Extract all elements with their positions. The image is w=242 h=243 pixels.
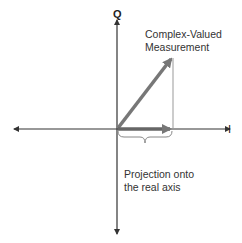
measurement-vector-arrow — [118, 59, 171, 128]
projection-label-line1: Projection onto — [124, 168, 194, 181]
i-axis-label: I — [228, 123, 231, 135]
projection-brace — [118, 131, 172, 143]
measurement-label: Complex-Valued Measurement — [145, 28, 222, 54]
q-axis-label: Q — [113, 8, 122, 20]
projection-label-line2: the real axis — [124, 181, 194, 194]
measurement-label-line1: Complex-Valued — [145, 28, 222, 41]
measurement-label-line2: Measurement — [145, 41, 222, 54]
projection-label: Projection onto the real axis — [124, 168, 194, 194]
